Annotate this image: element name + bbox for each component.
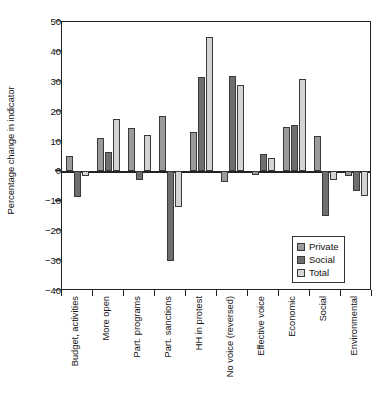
legend-item-label: Total xyxy=(309,267,329,278)
y-axis-tick-label: 30 xyxy=(1,75,61,86)
legend-item-label: Private xyxy=(309,241,339,252)
x-axis-tick-mark xyxy=(185,290,186,296)
bar xyxy=(268,158,275,171)
bar xyxy=(167,171,174,260)
bar xyxy=(229,76,236,172)
bar xyxy=(252,171,259,175)
y-axis-tick-label: −10 xyxy=(1,195,61,206)
x-axis-tick-mark xyxy=(216,290,217,296)
x-axis-category-label: More open xyxy=(101,293,115,405)
x-axis-tick-mark xyxy=(247,290,248,296)
bar xyxy=(74,171,81,196)
legend-item: Total xyxy=(297,266,339,279)
x-axis-tick-mark xyxy=(92,290,93,296)
bar xyxy=(361,171,368,195)
y-axis-tick-label: −20 xyxy=(1,225,61,236)
x-axis-tick-mark xyxy=(309,290,310,296)
y-axis-tick-label: 20 xyxy=(1,105,61,116)
x-axis-tick-mark xyxy=(154,290,155,296)
x-axis-category-label: HH in protest xyxy=(194,293,208,405)
bar xyxy=(221,171,228,181)
x-axis-tick-mark xyxy=(61,290,62,296)
bar xyxy=(291,125,298,172)
legend-item: Social xyxy=(297,253,339,266)
bar xyxy=(82,171,89,176)
bar xyxy=(190,132,197,171)
y-axis-tick-label: −40 xyxy=(1,285,61,296)
bar xyxy=(330,171,337,180)
legend-item-label: Social xyxy=(309,254,335,265)
bar xyxy=(283,127,290,171)
legend-item: Private xyxy=(297,240,339,253)
x-axis-category-label: No voice (reversed) xyxy=(225,293,239,405)
x-axis-tick-mark xyxy=(123,290,124,296)
bar xyxy=(128,128,135,171)
bar xyxy=(198,77,205,171)
bar xyxy=(136,171,143,179)
x-axis-category-label: Budget, activities xyxy=(70,293,84,405)
bar xyxy=(66,156,73,172)
x-axis-tick-mark xyxy=(278,290,279,296)
bar xyxy=(353,171,360,191)
y-axis-tick-label: 50 xyxy=(1,16,61,27)
bar xyxy=(299,79,306,171)
bar-chart: Percentage change in indicator 504030201… xyxy=(0,0,379,405)
bar xyxy=(322,171,329,216)
legend-swatch-icon xyxy=(297,256,305,264)
bar xyxy=(105,152,112,171)
y-axis-tick-label: 40 xyxy=(1,45,61,56)
bar xyxy=(97,138,104,172)
bar xyxy=(345,171,352,176)
x-axis-tick-mark xyxy=(340,290,341,296)
x-axis-category-label: Part. programs xyxy=(132,293,146,405)
x-axis-category-label: Environmental xyxy=(349,293,363,405)
bar xyxy=(175,171,182,207)
bar xyxy=(159,116,166,172)
legend-swatch-icon xyxy=(297,269,305,277)
x-axis-tick-mark xyxy=(371,290,372,296)
bar xyxy=(314,136,321,172)
x-axis-category-label: Social xyxy=(318,293,332,405)
x-axis-category-label: Part. sanctions xyxy=(163,293,177,405)
bar xyxy=(206,37,213,172)
x-axis-category-label: Economic xyxy=(287,293,301,405)
bar xyxy=(260,154,267,172)
y-axis-tick-label: 0 xyxy=(1,165,61,176)
bar xyxy=(144,135,151,171)
bar xyxy=(113,119,120,172)
y-axis-tick-label: 10 xyxy=(1,135,61,146)
chart-legend: PrivateSocialTotal xyxy=(292,236,345,283)
x-axis-category-label: Effective voice xyxy=(256,293,270,405)
legend-swatch-icon xyxy=(297,243,305,251)
y-axis-tick-label: −30 xyxy=(1,255,61,266)
bar xyxy=(237,85,244,171)
